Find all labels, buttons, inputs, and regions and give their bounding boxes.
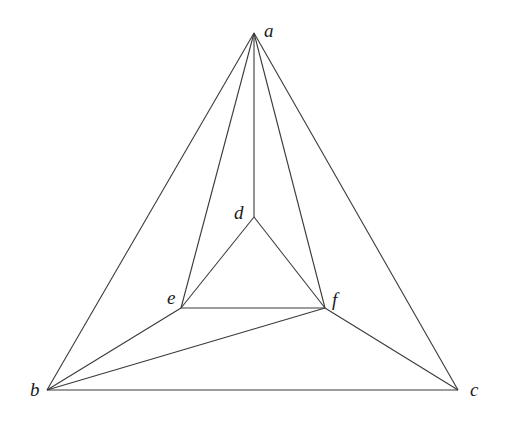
edge-d-e: [181, 217, 254, 308]
vertex-label-d: d: [234, 202, 244, 223]
vertex-label-e: e: [167, 287, 175, 308]
vertex-label-f: f: [332, 289, 340, 310]
edge-a-c: [254, 33, 458, 390]
edge-b-f: [47, 308, 325, 390]
graph-svg: abcdef: [0, 0, 508, 422]
edge-a-b: [47, 33, 254, 390]
edge-a-f: [254, 33, 325, 308]
edge-d-f: [254, 217, 325, 308]
vertex-label-c: c: [470, 379, 479, 400]
edge-a-e: [181, 33, 254, 308]
graph-diagram: abcdef: [0, 0, 508, 422]
edges-group: [47, 33, 458, 390]
edge-c-f: [325, 308, 458, 390]
vertex-label-b: b: [30, 379, 40, 400]
edge-b-e: [47, 308, 181, 390]
vertex-label-a: a: [264, 20, 274, 41]
